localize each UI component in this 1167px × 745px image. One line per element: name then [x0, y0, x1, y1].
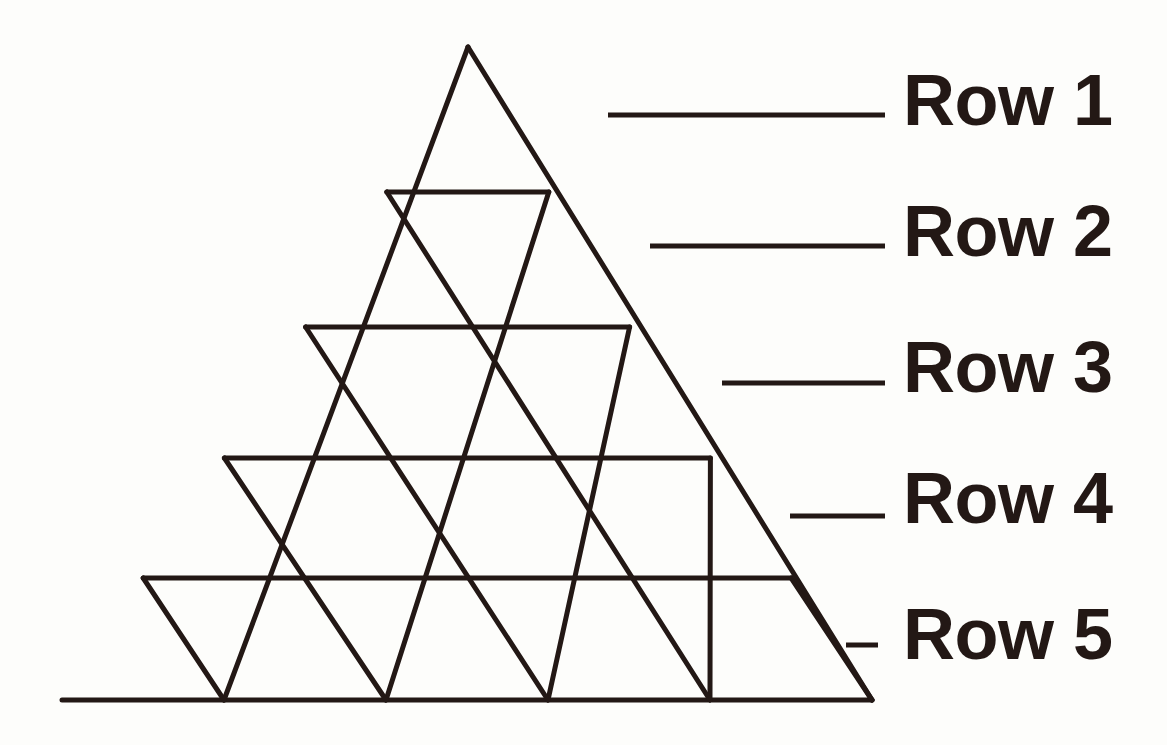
grid-line-left-5 [143, 578, 224, 700]
grid-line-right-1 [224, 47, 468, 700]
triangle-figure [0, 0, 1167, 745]
diagram-canvas: Row 1 Row 2 Row 3 Row 4 Row 5 [0, 0, 1167, 745]
grid-line-left-3 [306, 327, 548, 700]
grid-line-right-2 [386, 192, 549, 700]
legend-leader-lines [608, 115, 885, 645]
grid-line-left-2 [387, 192, 710, 700]
triangle-grid [62, 47, 872, 700]
grid-line-left-1 [468, 47, 872, 700]
